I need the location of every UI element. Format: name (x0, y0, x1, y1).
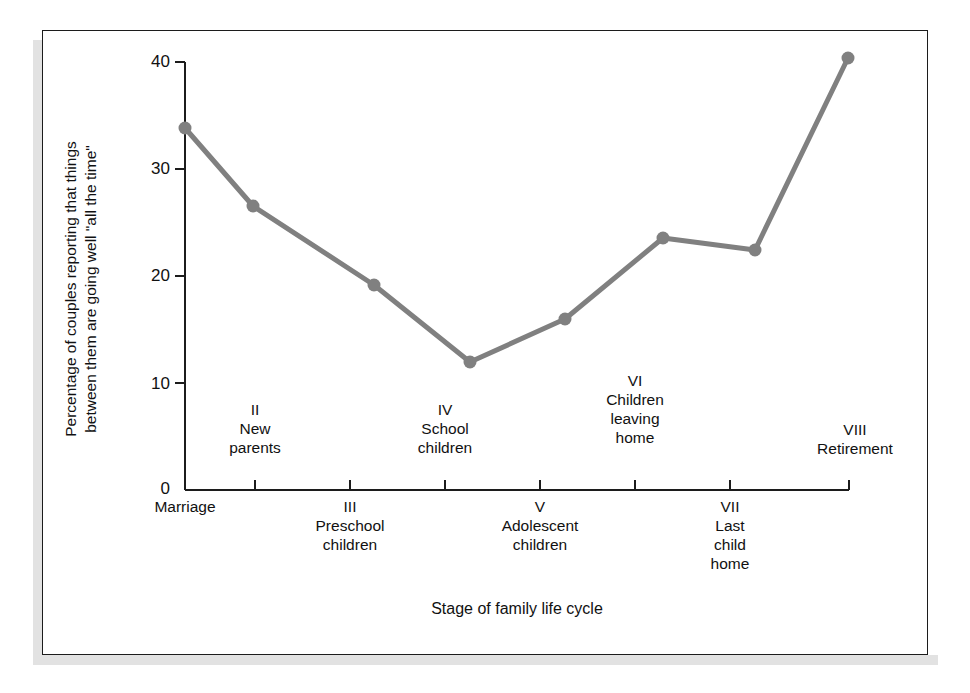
data-point-retirement (842, 52, 855, 65)
data-point-new-parents (247, 200, 260, 213)
x-category-label-new-parents: II New parents (185, 400, 325, 457)
series-line (185, 58, 848, 362)
x-category-label-school-children: IV School children (375, 400, 515, 457)
series-group (179, 52, 855, 369)
data-point-leaving-home (657, 232, 670, 245)
x-category-label-retirement: VIII Retirement (785, 420, 925, 458)
chart-canvas (0, 0, 970, 693)
data-point-marriage (179, 122, 192, 135)
x-axis-title: Stage of family life cycle (185, 600, 849, 618)
data-point-preschool (368, 279, 381, 292)
x-category-label-last-child-home: VII Last child home (660, 497, 800, 573)
data-point-last-child-home (749, 244, 762, 257)
x-category-label-adolescent-children: V Adolescent children (470, 497, 610, 554)
x-category-label-preschool-children: III Preschool children (280, 497, 420, 554)
data-point-adolescent (559, 313, 572, 326)
figure-root: Percentage of couples reporting that thi… (0, 0, 970, 693)
x-category-label-marriage: Marriage (115, 497, 255, 516)
x-category-label-children-leaving-home: VI Children leaving home (565, 371, 705, 447)
data-point-school-children (464, 356, 477, 369)
